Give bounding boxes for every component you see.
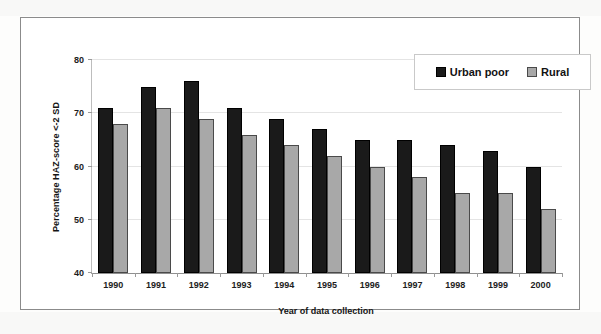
x-tick-label: 1996 [360,280,380,290]
bar-rural [284,145,299,273]
x-tick-label: 1993 [232,280,252,290]
bar-urban-poor [227,108,242,273]
bar-urban-poor [440,145,455,273]
bar-group [184,60,214,273]
bar-rural [156,108,171,273]
legend-label-rural: Rural [541,66,569,78]
x-tick-mark [348,273,349,277]
x-axis-title: Year of data collection [91,306,561,316]
bar-urban-poor [98,108,113,273]
bar-group [483,60,513,273]
x-axis-title-label: Year of data collection [278,306,374,316]
bar-urban-poor [526,167,541,274]
legend-swatch-rural-icon [527,67,537,77]
x-tick-label: 1991 [146,280,166,290]
x-tick-mark [220,273,221,277]
x-tick-mark [519,273,520,277]
scan-artifact-top [0,0,601,16]
figure-frame: Percentage HAZ-score <-2 SD 4050607080 1… [20,17,580,310]
bar-urban-poor [483,151,498,273]
bar-rural [113,124,128,273]
chart-legend: Urban poor Rural [414,54,591,90]
x-tick-mark [306,273,307,277]
bar-group [526,60,556,273]
scanned-page-background: Percentage HAZ-score <-2 SD 4050607080 1… [0,0,601,334]
legend-swatch-urban-poor-icon [436,67,446,77]
x-tick-mark [92,273,93,277]
x-tick-mark [434,273,435,277]
bar-group [269,60,299,273]
y-tick-label: 60 [74,162,84,172]
x-tick-mark [177,273,178,277]
y-tick-label: 40 [74,268,84,278]
x-tick-label: 1995 [317,280,337,290]
bar-rural [327,156,342,273]
y-tick-label: 70 [74,108,84,118]
x-tick-label: 1999 [488,280,508,290]
x-tick-label: 1998 [445,280,465,290]
legend-entry-rural: Rural [527,66,569,78]
bar-rural [455,193,470,273]
x-tick-label: 2000 [531,280,551,290]
x-tick-mark [477,273,478,277]
y-tick-label: 80 [74,55,84,65]
bar-rural [242,135,257,273]
x-tick-label: 1990 [103,280,123,290]
y-axis-title: Percentage HAZ-score <-2 SD [49,60,63,273]
x-tick-label: 1992 [189,280,209,290]
bar-urban-poor [141,87,156,273]
bar-group [355,60,385,273]
bars-layer [92,60,562,273]
bar-rural [412,177,427,273]
y-tick-label: 50 [74,215,84,225]
bar-rural [498,193,513,273]
legend-entry-urban-poor: Urban poor [436,66,509,78]
plot-area: 4050607080 19901991199219931994199519961… [91,60,562,274]
bar-rural [541,209,556,273]
bar-urban-poor [184,81,199,273]
bar-urban-poor [355,140,370,273]
bar-group [397,60,427,273]
bar-rural [199,119,214,273]
x-tick-label: 1997 [402,280,422,290]
bar-group [141,60,171,273]
bar-urban-poor [397,140,412,273]
bar-group [227,60,257,273]
bar-group [98,60,128,273]
x-tick-label: 1994 [274,280,294,290]
bar-urban-poor [312,129,327,273]
x-tick-mark [135,273,136,277]
x-tick-mark [562,273,563,277]
x-tick-mark [263,273,264,277]
x-tick-mark [391,273,392,277]
bar-group [312,60,342,273]
bar-rural [370,167,385,274]
bar-group [440,60,470,273]
legend-label-urban-poor: Urban poor [450,66,509,78]
bar-urban-poor [269,119,284,273]
y-axis-title-label: Percentage HAZ-score <-2 SD [51,102,61,232]
